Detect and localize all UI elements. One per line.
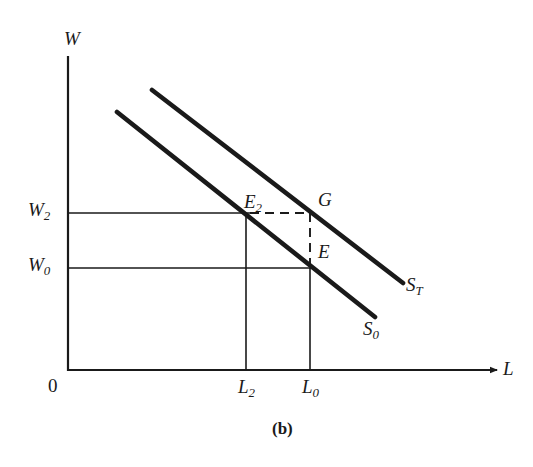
point-label-e2: E2 (244, 192, 262, 215)
tick-label-l2-main: L (238, 376, 249, 397)
curve-label-s-0-main: S (363, 318, 373, 339)
tick-label-l2-sub: 2 (249, 385, 255, 400)
tick-label-l0-sub: 0 (313, 385, 319, 400)
economics-figure: W L 0 W2 W0 L2 L0 E2 G E ST S0 (b) (0, 0, 533, 467)
tick-label-w2-sub: 2 (44, 208, 50, 223)
point-label-e2-main: E (244, 191, 256, 212)
y-axis-label: W (64, 29, 80, 48)
curve-label-s-t-sub: T (416, 283, 423, 298)
curve-label-s-0-sub: 0 (373, 327, 379, 342)
curve-label-s-0: S0 (363, 319, 379, 342)
tick-label-l0: L0 (302, 377, 319, 400)
point-label-g: G (318, 190, 332, 209)
curve-label-s-t-main: S (406, 274, 416, 295)
tick-label-l0-main: L (302, 376, 313, 397)
tick-label-w0-sub: 0 (44, 263, 50, 278)
curve-s-t (152, 90, 403, 283)
figure-caption: (b) (272, 419, 293, 439)
curve-label-s-t: ST (406, 275, 423, 298)
tick-label-w2-main: W (28, 199, 44, 220)
tick-label-w2: W2 (28, 200, 50, 223)
x-axis-label: L (503, 359, 514, 378)
diagram-canvas (0, 0, 533, 467)
origin-label: 0 (48, 376, 58, 395)
point-label-e: E (318, 242, 330, 261)
tick-label-w0: W0 (28, 255, 50, 278)
point-label-e2-sub: 2 (256, 200, 262, 215)
tick-label-l2: L2 (238, 377, 255, 400)
tick-label-w0-main: W (28, 254, 44, 275)
